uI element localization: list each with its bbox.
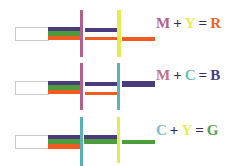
red-output-band: [122, 37, 155, 41]
light-source-box: [15, 135, 49, 149]
red-band: [48, 36, 80, 40]
magenta-filter-bar: [80, 10, 83, 57]
red-band-passed: [85, 37, 117, 40]
equation-b: Y: [181, 123, 192, 138]
equation-plus: +: [173, 68, 182, 83]
blue-output-band: [122, 81, 155, 87]
equation-a: M: [156, 16, 170, 31]
equation: C+Y=G: [156, 123, 218, 138]
equation-result: B: [210, 68, 220, 83]
blue-band-passed: [85, 28, 117, 32]
green-band-passed: [84, 139, 117, 144]
equation-plus: +: [173, 16, 182, 31]
blue-band-passed: [85, 82, 117, 86]
equation-result: G: [207, 123, 219, 138]
equation-equals: =: [195, 123, 204, 138]
magenta-filter-bar: [80, 63, 83, 110]
diagram-magenta-yellow: M+Y=R: [0, 0, 236, 55]
equation-a: M: [156, 68, 170, 83]
equation-equals: =: [199, 68, 208, 83]
equation-b: C: [185, 68, 196, 83]
equation: M+Y=R: [156, 16, 221, 31]
red-band-passed: [85, 92, 117, 95]
yellow-filter-bar: [117, 10, 121, 57]
light-source-box: [15, 81, 49, 95]
diagram-cyan-yellow: C+Y=G: [0, 108, 236, 163]
cyan-filter-bar: [80, 117, 83, 166]
equation-b: Y: [185, 16, 196, 31]
yellow-filter-bar: [117, 117, 120, 163]
red-band: [48, 144, 80, 149]
diagram-magenta-cyan: M+C=B: [0, 54, 236, 109]
light-source-box: [15, 27, 49, 41]
green-output-band: [122, 140, 155, 144]
cyan-filter-bar: [117, 63, 120, 110]
red-band: [48, 90, 80, 94]
equation-a: C: [156, 123, 167, 138]
equation: M+C=B: [156, 68, 220, 83]
equation-plus: +: [170, 123, 179, 138]
equation-result: R: [210, 16, 221, 31]
equation-equals: =: [199, 16, 208, 31]
